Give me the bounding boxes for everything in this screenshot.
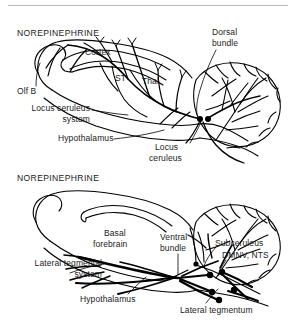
norepinephrine-figure: NOREPINEPHRINE Cortex Olf B ST Thal Dors… [0,0,296,328]
label-lateral-tegmental-system-line1: Lateral tegmental [0,258,102,269]
label-st: ST [115,73,126,84]
label-locus-ceruleus-line2: ceruleus [149,153,182,164]
bottom-panel-title: NOREPINEPHRINE [17,173,99,184]
label-lateral-tegmentum: Lateral tegmentum [180,305,253,316]
label-olf-b: Olf B [17,86,36,97]
label-dmnv-nts: DMNV, NTS [222,250,269,261]
label-dorsal-bundle-line2: bundle [212,38,238,49]
label-dorsal-bundle-line1: Dorsal [212,27,237,38]
label-hypothalamus-top: Hypothalamus [58,133,114,144]
label-thal: Thal [142,76,159,87]
label-ventral-bundle-line1: Ventral [160,232,187,243]
label-basal-forebrain-line2: forebrain [93,239,127,250]
label-hypothalamus-bottom: Hypothalamus [80,294,136,305]
label-basal-forebrain-line1: Basal [104,228,126,239]
label-lateral-tegmental-system-line2: system [0,269,102,280]
label-locus-ceruleus-line1: Locus [155,142,178,153]
label-subceruleus: Subceruleus [215,238,263,249]
label-cortex: Cortex [85,47,111,58]
label-locus-ceruleus-system-line1: Locus ceruleus [0,103,90,114]
label-ventral-bundle-line2: bundle [160,243,186,254]
label-locus-ceruleus-system-line2: system [0,114,90,125]
top-panel-title: NOREPINEPHRINE [17,28,99,39]
